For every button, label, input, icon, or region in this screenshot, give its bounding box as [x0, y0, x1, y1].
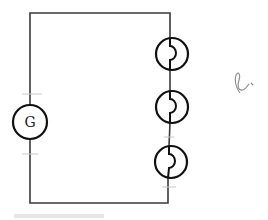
circuit-wires [30, 13, 170, 203]
wire-lamp2-lamp3 [169, 123, 170, 146]
lamp-3 [155, 146, 187, 178]
handwritten-mark: ℓ [235, 73, 253, 93]
circuit-diagram: G ℓ [0, 0, 268, 220]
wire-left-bottom [30, 139, 168, 203]
lamp-2 [156, 91, 188, 123]
scan-artifacts [22, 94, 176, 187]
generator-label: G [24, 114, 35, 130]
generator-symbol: G [13, 105, 47, 139]
lamp-1 [156, 38, 188, 70]
wire-left-top [30, 13, 170, 105]
faded-caption [14, 214, 104, 218]
